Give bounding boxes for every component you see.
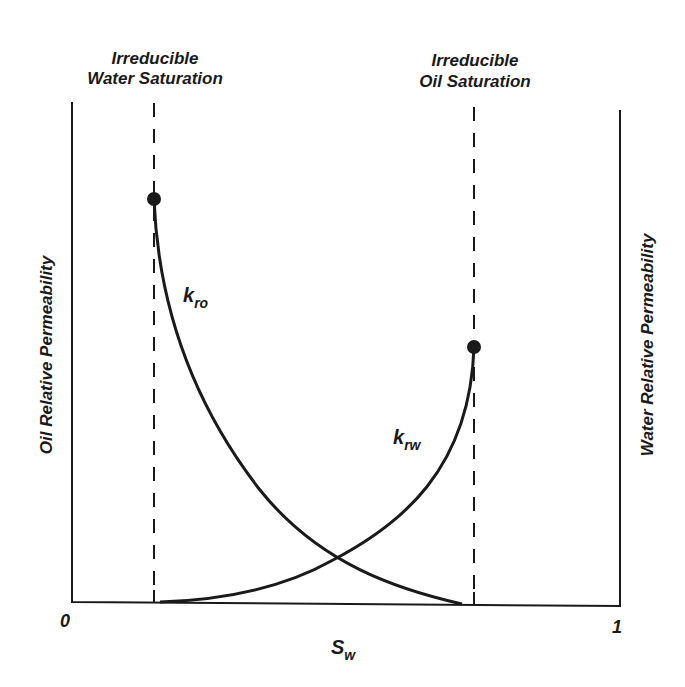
krw-endpoint-marker bbox=[467, 340, 481, 354]
kro-curve bbox=[154, 199, 462, 604]
x-axis-label: Sw bbox=[331, 636, 356, 663]
krw-curve bbox=[160, 347, 474, 602]
sor-annotation-line2: Oil Saturation bbox=[419, 72, 530, 91]
kro-endpoint-marker bbox=[147, 192, 161, 206]
relative-permeability-chart: Irreducible Water Saturation Irreducible… bbox=[0, 0, 685, 687]
y-axis-left-label: Oil Relative Permeability bbox=[37, 254, 56, 454]
x-tick-0: 0 bbox=[60, 611, 70, 631]
sor-annotation-line1: Irreducible bbox=[432, 51, 519, 70]
x-tick-1: 1 bbox=[612, 617, 622, 637]
swi-annotation-line1: Irreducible bbox=[112, 49, 199, 68]
y-axis-right-label: Water Relative Permeability bbox=[638, 232, 657, 456]
swi-annotation-line2: Water Saturation bbox=[87, 69, 223, 88]
kro-label: kro bbox=[183, 284, 209, 311]
krw-label: krw bbox=[393, 426, 422, 453]
